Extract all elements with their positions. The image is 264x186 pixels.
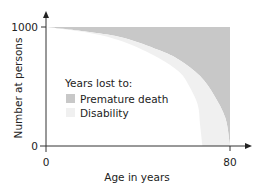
legend: Years lost to: Premature death Disabilit… <box>64 77 168 119</box>
legend-swatch-disability <box>66 108 75 117</box>
legend-label-premature-death: Premature death <box>80 93 168 105</box>
y-axis-label: Number at persons <box>12 38 24 139</box>
y-tick-label-1000: 1000 <box>11 21 38 33</box>
chart: 1000 0 0 80 Age in years Number at perso… <box>0 0 264 186</box>
legend-swatch-premature-death <box>66 94 75 103</box>
y-axis-arrow-icon <box>43 11 49 18</box>
x-tick-label-0: 0 <box>43 156 50 168</box>
legend-title: Years lost to: <box>64 77 132 89</box>
legend-label-disability: Disability <box>80 107 129 119</box>
x-axis-label: Age in years <box>104 171 169 183</box>
x-tick-label-80: 80 <box>223 156 236 168</box>
y-tick-label-0: 0 <box>31 140 38 152</box>
x-axis-arrow-icon <box>245 143 252 149</box>
